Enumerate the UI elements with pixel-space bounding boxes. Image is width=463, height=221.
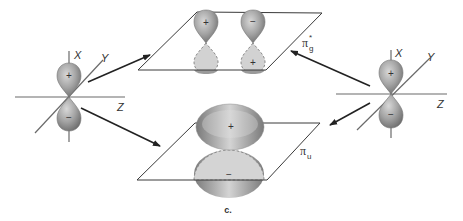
antibonding-right-upper-sign: −	[250, 16, 256, 27]
arrow-left-to-bonding	[81, 108, 160, 146]
right-upper-sign: +	[388, 68, 394, 79]
left-z-label: Z	[116, 101, 125, 113]
bonding-upper-sign: +	[228, 121, 234, 132]
left-y-label: Y	[101, 52, 109, 64]
bonding-pi-u-orbital: + − π u	[137, 104, 320, 198]
bonding-subscript: u	[307, 152, 311, 161]
left-lower-sign: −	[66, 112, 72, 123]
antibonding-subscript: g	[309, 44, 313, 53]
antibonding-left-upper-sign: +	[203, 17, 209, 28]
right-lower-sign: −	[388, 109, 394, 120]
arrow-left-to-antibonding	[88, 55, 150, 82]
antibonding-left-lower-lobe	[194, 43, 218, 73]
antibonding-nodal-plane	[138, 12, 322, 70]
left-upper-sign: +	[66, 70, 72, 81]
right-y-label: Y	[427, 51, 435, 63]
antibonding-superscript: *	[309, 33, 312, 42]
left-x-label: X	[73, 49, 82, 61]
left-atom-p-orbital: + − X Y Z	[15, 49, 125, 142]
antibonding-right-lower-sign: +	[250, 57, 256, 68]
figure-caption: c.	[224, 205, 232, 215]
right-z-label: Z	[436, 98, 445, 110]
antibonding-pi-g-orbital: + − + π g *	[138, 10, 322, 74]
pi-orbital-diagram: + − X Y Z + − X Y Z + − + π g *	[0, 0, 463, 221]
bonding-label: π	[300, 144, 306, 158]
antibonding-label: π	[302, 36, 308, 50]
antibonding-left-lobe-shadow	[194, 70, 218, 74]
bonding-lower-sign: −	[226, 169, 232, 180]
antibonding-right-lobe-shadow	[241, 70, 265, 74]
right-x-label: X	[394, 47, 403, 59]
arrow-right-to-bonding	[330, 103, 370, 125]
arrow-right-to-antibonding	[291, 51, 370, 86]
right-atom-p-orbital: + − X Y Z	[336, 47, 447, 138]
